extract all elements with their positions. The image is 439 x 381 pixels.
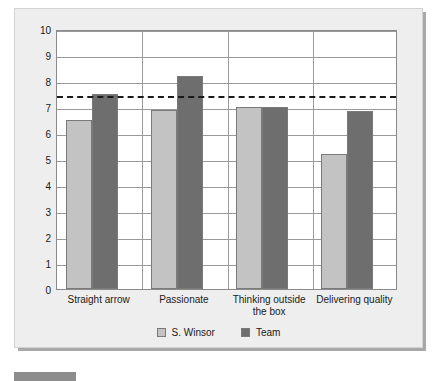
- y-axis-tick-label: 4: [45, 182, 51, 192]
- legend-swatch: [241, 328, 250, 337]
- bar: [347, 111, 373, 289]
- y-axis-tick-label: 9: [45, 52, 51, 62]
- category-separator: [142, 31, 143, 289]
- x-axis-label: Thinking outside the box: [227, 294, 312, 318]
- category-separator: [313, 31, 314, 289]
- y-axis-tick-label: 2: [45, 234, 51, 244]
- bar: [236, 107, 262, 289]
- reference-line: [57, 96, 396, 98]
- bar: [92, 94, 118, 289]
- category-separator: [228, 31, 229, 289]
- bar: [321, 154, 347, 289]
- legend-label: S. Winsor: [172, 327, 215, 338]
- gridline: [57, 83, 396, 84]
- y-axis-tick-label: 10: [40, 26, 51, 36]
- figure-shadow-bottom: [18, 348, 426, 351]
- y-axis-tick-label: 7: [45, 104, 51, 114]
- x-axis-label: Delivering quality: [312, 294, 397, 306]
- legend-label: Team: [256, 327, 280, 338]
- legend-swatch: [157, 328, 166, 337]
- plot-area: 012345678910: [56, 30, 397, 290]
- bar: [151, 110, 177, 289]
- figure-panel: 012345678910 Straight arrowPassionateThi…: [14, 8, 423, 348]
- chart-legend: S. WinsorTeam: [15, 327, 422, 338]
- y-axis-tick-label: 6: [45, 130, 51, 140]
- figure-shadow-right: [423, 12, 426, 350]
- y-axis-tick-label: 0: [45, 286, 51, 296]
- y-axis-tick-label: 5: [45, 156, 51, 166]
- y-axis-tick-label: 3: [45, 208, 51, 218]
- x-axis-label: Straight arrow: [56, 294, 141, 306]
- y-axis-tick-label: 8: [45, 78, 51, 88]
- caption-strip: [14, 372, 424, 381]
- bar: [262, 107, 288, 289]
- gridline: [57, 57, 396, 58]
- x-axis-label: Passionate: [141, 294, 226, 306]
- bar: [66, 120, 92, 289]
- legend-item: Team: [241, 327, 280, 338]
- gridline: [57, 31, 396, 32]
- bar: [177, 76, 203, 289]
- y-axis-tick-label: 1: [45, 260, 51, 270]
- legend-item: S. Winsor: [157, 327, 215, 338]
- caption-tag: [14, 372, 76, 381]
